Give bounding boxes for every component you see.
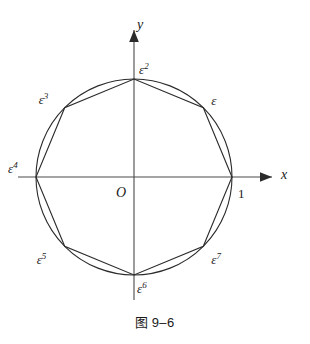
vertex-label-base: ε (211, 93, 216, 108)
vertex-label-exponent: 4 (13, 160, 18, 170)
vertex-label-ε3: ε3 (39, 92, 49, 106)
vertex-label-ε7: ε7 (211, 252, 221, 266)
vertex-label-exponent: 7 (216, 251, 221, 261)
figure-container: 1εε2ε3ε4ε5ε6ε7 y x O 图9–6 (0, 0, 310, 344)
origin-label: O (116, 186, 126, 200)
x-axis-arrowhead (260, 172, 272, 182)
vertex-label-ε: ε (211, 94, 216, 107)
figure-caption: 图9–6 (0, 312, 310, 331)
vertex-label-ε2: ε2 (139, 62, 149, 76)
figure-caption-number: 9–6 (152, 315, 175, 330)
vertex-label-ε4: ε4 (8, 161, 18, 175)
vertex-label-ε5: ε5 (37, 252, 47, 266)
figure-caption-cjk: 图 (135, 315, 149, 330)
y-axis-label: y (137, 18, 143, 32)
vertex-label-exponent: 5 (42, 251, 47, 261)
complex-plane-diagram (0, 0, 310, 344)
x-axis-label: x (281, 168, 287, 182)
vertex-label-exponent: 6 (142, 280, 147, 290)
vertex-label-exponent: 2 (144, 61, 149, 71)
vertex-label-ε6: ε6 (137, 281, 147, 295)
vertex-label-1: 1 (238, 187, 245, 200)
vertex-label-base: 1 (238, 186, 245, 201)
vertex-label-exponent: 3 (44, 91, 49, 101)
